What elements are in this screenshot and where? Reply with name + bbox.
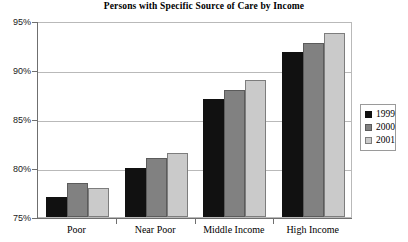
legend-item-1999[interactable]: 1999 — [365, 108, 391, 121]
bar-high-income-1999 — [282, 52, 303, 217]
y-tick-85 — [32, 120, 37, 121]
x-axis-separator — [195, 218, 196, 224]
legend-item-2001[interactable]: 2001 — [365, 134, 391, 147]
y-axis-label-75: 75% — [1, 213, 31, 223]
bar-near-poor-1999 — [125, 168, 146, 217]
bar-middle-income-2000 — [224, 90, 245, 217]
bar-near-poor-2001 — [167, 153, 188, 217]
x-axis-separator — [116, 218, 117, 224]
legend-swatch-icon-2001 — [365, 137, 372, 144]
legend-label-2000: 2000 — [376, 121, 395, 134]
x-axis-separator — [273, 218, 274, 224]
x-axis-label-high-income: High Income — [286, 224, 339, 235]
bar-poor-1999 — [46, 197, 67, 217]
legend-swatch-icon-2000 — [365, 124, 372, 131]
x-axis-label-near-poor: Near Poor — [135, 224, 176, 235]
y-tick-80 — [32, 169, 37, 170]
y-axis-label-95: 95% — [1, 17, 31, 27]
bar-poor-2001 — [88, 188, 109, 217]
bar-middle-income-2001 — [245, 80, 266, 217]
x-axis-label-middle-income: Middle Income — [203, 224, 264, 235]
chart-legend: 199920002001 — [360, 104, 396, 151]
bar-high-income-2000 — [303, 43, 324, 217]
y-tick-90 — [32, 71, 37, 72]
plot-area — [37, 22, 352, 218]
bar-chart: Persons with Specific Source of Care by … — [0, 0, 408, 242]
y-axis-line — [37, 22, 38, 218]
legend-item-2000[interactable]: 2000 — [365, 121, 391, 134]
legend-label-1999: 1999 — [376, 108, 395, 121]
bar-near-poor-2000 — [146, 158, 167, 217]
chart-title: Persons with Specific Source of Care by … — [0, 1, 408, 11]
bar-middle-income-1999 — [203, 99, 224, 217]
y-axis-label-80: 80% — [1, 164, 31, 174]
y-tick-95 — [32, 22, 37, 23]
bar-high-income-2001 — [324, 33, 345, 217]
bar-poor-2000 — [67, 183, 88, 217]
legend-label-2001: 2001 — [376, 134, 395, 147]
x-axis-label-poor: Poor — [67, 224, 86, 235]
y-axis-label-85: 85% — [1, 115, 31, 125]
legend-swatch-icon-1999 — [365, 111, 372, 118]
y-axis-label-90: 90% — [1, 66, 31, 76]
